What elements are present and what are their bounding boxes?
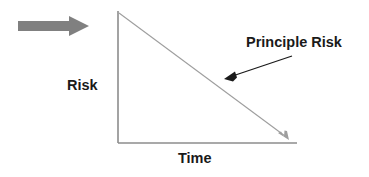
y-axis-label: Risk [67,77,98,93]
process-direction-arrow [18,16,89,36]
declining-risk-trend-line [119,13,285,136]
principle-risk-annotation-label: Principle Risk [246,34,342,50]
risk-over-time-diagram: Risk Time Principle Risk [0,0,369,177]
principle-risk-arrowhead-icon [224,72,237,82]
x-axis-label: Time [178,150,212,166]
principle-risk-pointer-line [231,56,292,77]
